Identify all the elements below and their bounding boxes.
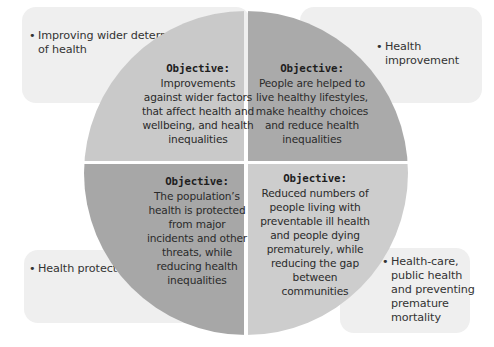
objective-text: Reduced numbers of people living with pr… <box>260 187 370 297</box>
objective-text: Improvements against wider factors that … <box>142 77 254 145</box>
objective-health-improvement: Objective: People are helped to live hea… <box>252 62 372 146</box>
bullet-icon: • <box>29 29 36 43</box>
bullet-icon: • <box>29 262 36 276</box>
objective-title: Objective: <box>144 175 250 189</box>
objective-health-protection: Objective: The population’s health is pr… <box>144 175 250 287</box>
objective-title: Objective: <box>140 62 256 76</box>
objective-title: Objective: <box>260 172 370 186</box>
objective-text: People are helped to live healthy lifest… <box>256 77 368 145</box>
objective-text: The population’s health is protected fro… <box>147 190 247 286</box>
objective-title: Objective: <box>252 62 372 76</box>
objective-wider-determinants: Objective: Improvements against wider fa… <box>140 62 256 146</box>
objective-healthcare-mortality: Objective: Reduced numbers of people liv… <box>260 172 370 298</box>
